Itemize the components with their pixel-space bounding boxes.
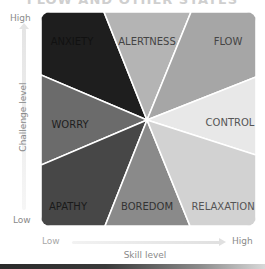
region-label-worry: WORRY bbox=[51, 119, 89, 130]
x-axis-high-label: High bbox=[232, 236, 253, 246]
x-axis-title: Skill level bbox=[100, 250, 190, 260]
region-label-boredom: BOREDOM bbox=[121, 201, 173, 212]
region-label-relaxation: RELAXATION bbox=[191, 201, 254, 212]
x-axis-low-label: Low bbox=[42, 236, 60, 246]
region-label-flow: FLOW bbox=[214, 36, 243, 47]
region-label-apathy: APATHY bbox=[49, 201, 88, 212]
flow-diagram-grid: ANXIETYALERTNESSFLOWWORRYCONTROLAPATHYBO… bbox=[0, 0, 265, 269]
region-label-anxiety: ANXIETY bbox=[51, 36, 95, 47]
region-label-alertness: ALERTNESS bbox=[118, 36, 176, 47]
region-label-control: CONTROL bbox=[206, 117, 255, 128]
x-axis-arrow-icon bbox=[72, 241, 220, 244]
bottom-divider-bar bbox=[0, 264, 265, 269]
